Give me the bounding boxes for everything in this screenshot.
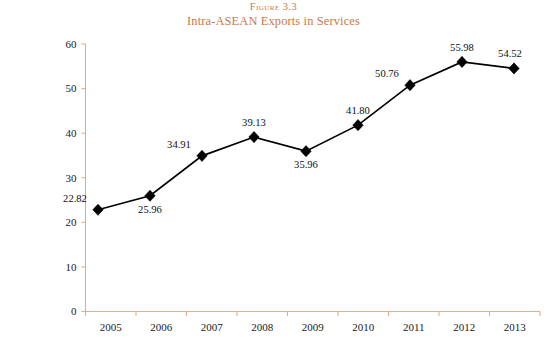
x-tick-label: 2013	[504, 321, 527, 333]
data-point-marker[interactable]	[457, 56, 467, 67]
data-point-label: 22.82	[63, 193, 87, 204]
y-tick-label: 40	[66, 127, 78, 139]
data-label-layer: 22.8225.9634.9139.1335.9641.8050.7655.98…	[63, 42, 522, 215]
x-tick-label: 2010	[352, 321, 375, 333]
data-point-marker[interactable]	[509, 63, 519, 74]
data-point-marker[interactable]	[197, 150, 207, 161]
x-axis-ticks: 200520062007200820092010201120122013	[86, 312, 541, 333]
data-point-label: 50.76	[375, 68, 399, 79]
y-tick-label: 10	[66, 261, 78, 273]
x-tick-label: 2009	[302, 321, 325, 333]
x-tick-label: 2006	[150, 321, 173, 333]
x-tick-label: 2011	[403, 321, 425, 333]
y-tick-label: 50	[66, 82, 78, 94]
data-point-marker[interactable]	[353, 120, 363, 131]
data-point-marker[interactable]	[145, 190, 155, 201]
data-point-marker[interactable]	[405, 80, 415, 91]
y-tick-label: 30	[66, 172, 78, 184]
series-line	[98, 62, 514, 210]
data-point-label: 54.52	[498, 48, 522, 59]
y-tick-label: 0	[71, 305, 77, 317]
data-point-label: 34.91	[167, 139, 191, 150]
figure-container: Figure 3.3 Intra-ASEAN Exports in Servic…	[0, 0, 547, 345]
y-tick-label: 60	[66, 38, 78, 50]
line-chart: 0102030405060 20052006200720082009201020…	[0, 0, 547, 345]
x-tick-label: 2008	[251, 321, 274, 333]
x-tick-label: 2007	[201, 321, 224, 333]
data-point-label: 25.96	[138, 204, 162, 215]
data-point-label: 55.98	[450, 42, 474, 53]
data-point-label: 35.96	[294, 159, 318, 170]
series-layer	[98, 62, 514, 210]
data-point-marker[interactable]	[301, 146, 311, 157]
axis-layer	[86, 44, 541, 312]
data-point-label: 39.13	[242, 117, 266, 128]
y-tick-label: 20	[66, 216, 78, 228]
data-point-marker[interactable]	[249, 131, 259, 142]
x-tick-label: 2012	[453, 321, 475, 333]
data-point-label: 41.80	[346, 105, 370, 116]
x-tick-label: 2005	[100, 321, 123, 333]
data-point-marker[interactable]	[93, 204, 103, 215]
y-axis-ticks: 0102030405060	[66, 38, 86, 318]
